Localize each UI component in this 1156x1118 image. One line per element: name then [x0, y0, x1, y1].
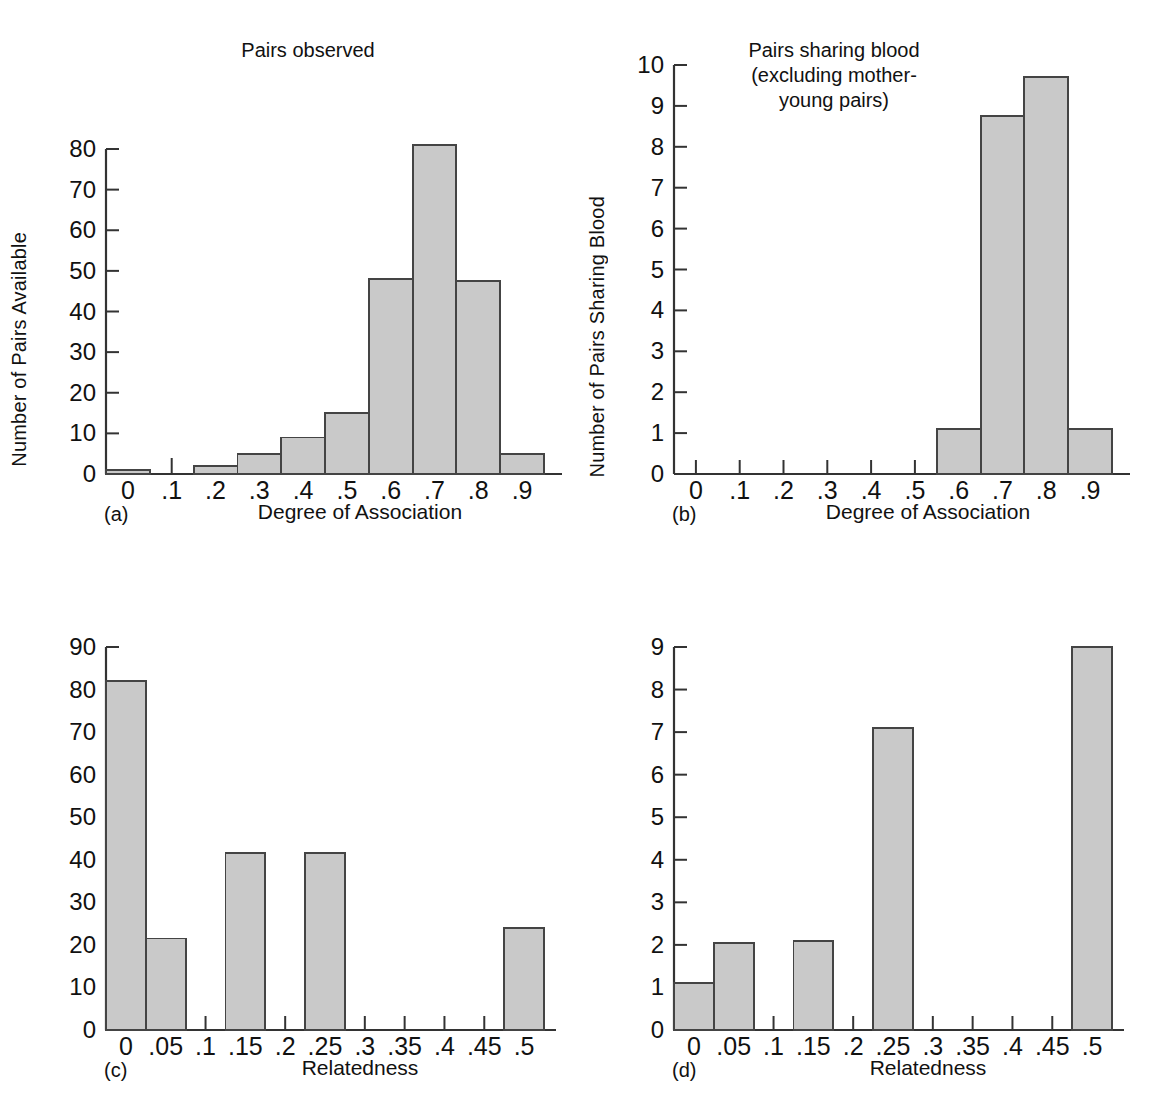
histogram-bar	[500, 454, 544, 474]
y-tick-label: 10	[69, 973, 96, 1000]
histogram-bar	[281, 437, 325, 474]
y-tick-label: 0	[83, 1016, 96, 1043]
y-tick-label: 70	[69, 176, 96, 203]
x-tick-label: .2	[205, 476, 226, 504]
y-tick-label: 70	[69, 718, 96, 745]
y-tick-label: 4	[651, 296, 664, 323]
y-tick-label: 1	[651, 419, 664, 446]
y-tick-label: 30	[69, 338, 96, 365]
y-tick-label: 5	[651, 803, 664, 830]
y-tick-label: 20	[69, 931, 96, 958]
y-tick-label: 1	[651, 973, 664, 1000]
x-tick-label: .4	[293, 476, 314, 504]
histogram-bar	[106, 681, 146, 1030]
x-tick-label: .35	[955, 1032, 990, 1060]
x-tick-label: .3	[354, 1032, 375, 1060]
y-tick-label: 50	[69, 803, 96, 830]
panel-c-plot: 01020304050607080900.05.1.15.2.25.3.35.4…	[0, 559, 578, 1118]
y-tick-label: 20	[69, 379, 96, 406]
histogram-bar	[325, 413, 369, 474]
panel-d-plot: 01234567890.05.1.15.2.25.3.35.4.45.5	[578, 559, 1156, 1118]
y-tick-label: 40	[69, 298, 96, 325]
y-tick-label: 7	[651, 174, 664, 201]
x-tick-label: .1	[161, 476, 182, 504]
x-tick-label: .2	[843, 1032, 864, 1060]
histogram-bar	[225, 853, 265, 1030]
x-tick-label: .6	[380, 476, 401, 504]
histogram-bar	[504, 928, 544, 1030]
x-tick-label: .05	[148, 1032, 183, 1060]
figure-histogram-grid: Number of Pairs Available Number of Pair…	[0, 0, 1156, 1118]
histogram-bar	[413, 145, 457, 474]
x-tick-label: .8	[1036, 476, 1057, 504]
y-tick-label: 0	[651, 460, 664, 487]
y-tick-label: 90	[69, 633, 96, 660]
x-tick-label: .2	[275, 1032, 296, 1060]
histogram-bar	[937, 429, 981, 474]
y-tick-label: 80	[69, 676, 96, 703]
histogram-bar	[873, 728, 913, 1030]
panel-b-plot: 0123456789100.1.2.3.4.5.6.7.8.9	[578, 0, 1156, 559]
x-tick-label: 0	[121, 476, 135, 504]
x-tick-label: .05	[716, 1032, 751, 1060]
y-tick-label: 6	[651, 215, 664, 242]
x-tick-label: .4	[434, 1032, 455, 1060]
histogram-bar	[369, 279, 413, 474]
histogram-bar	[1024, 77, 1068, 474]
x-tick-label: .35	[387, 1032, 422, 1060]
y-tick-label: 10	[69, 419, 96, 446]
histogram-bar	[714, 943, 754, 1030]
x-tick-label: .8	[468, 476, 489, 504]
histogram-bar	[305, 853, 345, 1030]
histogram-bar	[146, 939, 186, 1030]
x-tick-label: .5	[336, 476, 357, 504]
y-tick-label: 2	[651, 378, 664, 405]
x-tick-label: .2	[773, 476, 794, 504]
x-tick-label: .1	[195, 1032, 216, 1060]
x-tick-label: 0	[689, 476, 703, 504]
y-tick-label: 9	[651, 633, 664, 660]
x-tick-label: .5	[514, 1032, 535, 1060]
x-tick-label: 0	[687, 1032, 701, 1060]
x-tick-label: .25	[308, 1032, 343, 1060]
x-tick-label: .4	[861, 476, 882, 504]
x-tick-label: .45	[1035, 1032, 1070, 1060]
x-tick-label: .1	[729, 476, 750, 504]
y-tick-label: 8	[651, 133, 664, 160]
histogram-bar	[237, 454, 281, 474]
y-tick-label: 4	[651, 846, 664, 873]
x-tick-label: .15	[228, 1032, 263, 1060]
x-tick-label: .5	[904, 476, 925, 504]
y-tick-label: 7	[651, 718, 664, 745]
y-tick-label: 0	[651, 1016, 664, 1043]
y-tick-label: 60	[69, 761, 96, 788]
histogram-bar	[793, 941, 833, 1030]
histogram-bar	[674, 983, 714, 1030]
x-tick-label: .6	[948, 476, 969, 504]
panel-a-plot: 010203040506070800.1.2.3.4.5.6.7.8.9	[0, 0, 578, 559]
x-tick-label: .15	[796, 1032, 831, 1060]
histogram-bar	[981, 116, 1025, 474]
x-tick-label: .4	[1002, 1032, 1023, 1060]
x-tick-label: .7	[424, 476, 445, 504]
y-tick-label: 80	[69, 135, 96, 162]
y-tick-label: 2	[651, 931, 664, 958]
x-tick-label: .3	[817, 476, 838, 504]
y-tick-label: 10	[637, 51, 664, 78]
y-tick-label: 8	[651, 676, 664, 703]
histogram-bar	[1072, 647, 1112, 1030]
x-tick-label: .9	[512, 476, 533, 504]
x-tick-label: .9	[1080, 476, 1101, 504]
x-tick-label: 0	[119, 1032, 133, 1060]
histogram-bar	[1068, 429, 1112, 474]
y-tick-label: 5	[651, 256, 664, 283]
x-tick-label: .1	[763, 1032, 784, 1060]
y-tick-label: 60	[69, 216, 96, 243]
histogram-bar	[194, 466, 238, 474]
x-tick-label: .7	[992, 476, 1013, 504]
y-tick-label: 50	[69, 257, 96, 284]
x-tick-label: .45	[467, 1032, 502, 1060]
y-tick-label: 0	[83, 460, 96, 487]
y-tick-label: 9	[651, 92, 664, 119]
y-tick-label: 6	[651, 761, 664, 788]
